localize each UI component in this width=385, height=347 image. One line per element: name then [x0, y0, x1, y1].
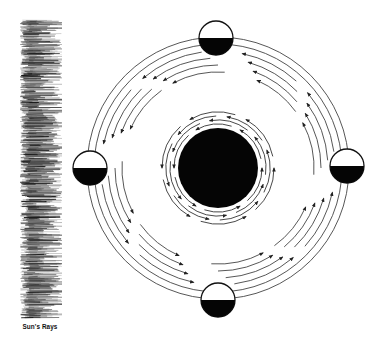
sun-rays-bar — [20, 20, 62, 318]
sun-rays-caption: Sun's Rays — [18, 322, 62, 331]
moon-left — [73, 151, 107, 185]
moon-right — [330, 149, 364, 183]
tidal-diagram — [0, 0, 385, 347]
earth-disc — [178, 128, 258, 208]
moon-bottom — [201, 283, 235, 317]
moon-top — [199, 21, 233, 55]
